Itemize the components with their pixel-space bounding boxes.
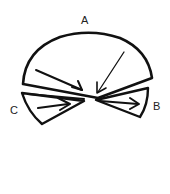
label-b: B bbox=[153, 100, 160, 112]
arrow-a-top bbox=[98, 52, 124, 92]
label-a: A bbox=[81, 14, 88, 26]
region-a-sector bbox=[23, 33, 152, 98]
sector-diagram bbox=[0, 0, 170, 194]
label-c: C bbox=[10, 104, 18, 116]
